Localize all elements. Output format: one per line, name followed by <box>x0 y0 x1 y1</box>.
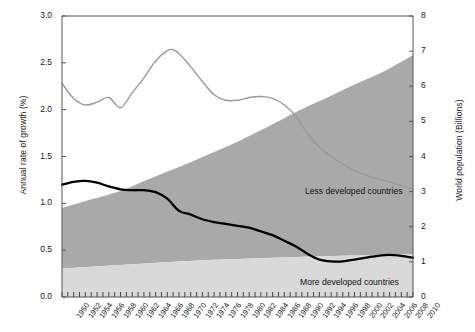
area-less-developed <box>62 55 413 268</box>
stacked-area-series <box>62 55 413 297</box>
annotation-less-developed: Less developed countries <box>305 186 402 196</box>
population-growth-chart: Annual rate of growth (%) World populati… <box>0 0 475 332</box>
plot-canvas <box>0 0 475 332</box>
annotation-more-developed: More developed countries <box>300 277 399 287</box>
